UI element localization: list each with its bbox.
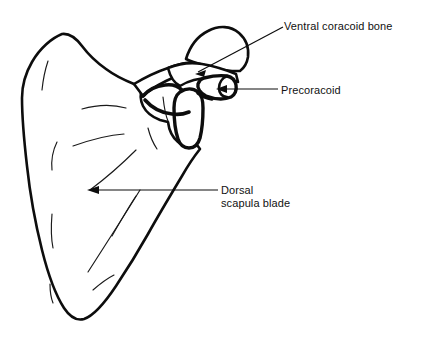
coracoid-process-capsule <box>174 89 203 148</box>
label-dorsal-scapula-blade: Dorsal scapula blade <box>221 184 290 210</box>
label-ventral-coracoid-bone: Ventral coracoid bone <box>284 20 393 33</box>
anatomical-diagram <box>0 0 431 343</box>
label-precoracoid: Precoracoid <box>281 84 341 97</box>
figure-root: Ventral coracoid bone Precoracoid Dorsal… <box>0 0 431 343</box>
blade-texture-stroke-8 <box>163 97 168 121</box>
